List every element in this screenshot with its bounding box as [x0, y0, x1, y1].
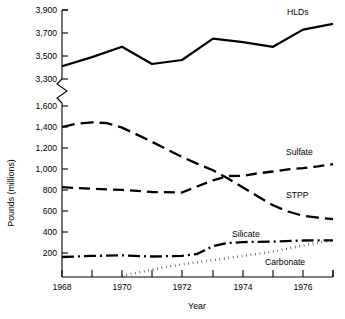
y-tick-label-1400: 1,400 [35, 122, 57, 132]
y-tick-label-400: 400 [43, 227, 58, 237]
y-tick-label-800: 800 [43, 185, 58, 195]
series-label-hlds: HLDs [287, 7, 309, 17]
x-tick-label-1974: 1974 [233, 282, 252, 292]
series-line-stpp [62, 122, 333, 219]
y-axis-break-icon [57, 79, 67, 103]
y-tick-label-3500: 3,500 [35, 51, 57, 61]
y-axis-title: Pounds (millions) [6, 159, 16, 227]
y-tick-label-1000: 1,000 [35, 164, 57, 174]
line-chart: 3,900 3,700 3,500 3,300 1,600 1,400 1,20… [0, 0, 345, 319]
series-label-sulfate: Sulfate [286, 147, 313, 157]
series-line-silicate [62, 240, 333, 257]
series-label-silicate: Silicate [232, 229, 260, 239]
y-tick-label-1200: 1,200 [35, 143, 57, 153]
y-tick-label-3700: 3,700 [35, 28, 57, 38]
x-tick-label-1968: 1968 [52, 282, 71, 292]
y-tick-label-1600: 1,600 [35, 101, 57, 111]
series-label-carbonate: Carbonate [265, 257, 305, 267]
y-tick-label-3300: 3,300 [35, 74, 57, 84]
x-tick-label-1970: 1970 [112, 282, 131, 292]
y-tick-label-3900: 3,900 [35, 5, 57, 15]
y-ticks-upper: 3,900 3,700 3,500 3,300 [35, 5, 68, 84]
x-tick-label-1972: 1972 [172, 282, 191, 292]
y-tick-label-600: 600 [43, 206, 58, 216]
chart-container: 3,900 3,700 3,500 3,300 1,600 1,400 1,20… [0, 0, 345, 319]
x-tick-label-1976: 1976 [293, 282, 312, 292]
y-ticks-lower: 1,600 1,400 1,200 1,000 800 600 400 200 [35, 101, 68, 258]
x-ticks: 1968 1970 1972 1974 1976 [52, 270, 333, 292]
series-line-hlds [62, 24, 333, 66]
x-axis-title: Year [188, 301, 206, 311]
y-tick-label-200: 200 [43, 248, 58, 258]
series-label-stpp: STPP [286, 190, 309, 200]
series-line-sulfate [62, 164, 333, 192]
